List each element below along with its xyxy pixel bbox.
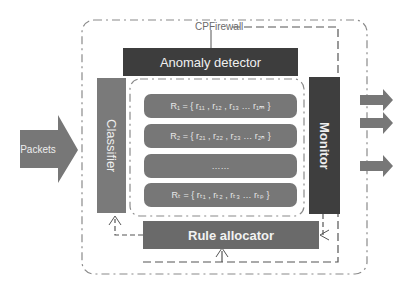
monitor-block: Monitor: [309, 77, 340, 214]
rule-set-label: Rₜ = { rₜ₁ , rₜ₂ , rₜ₃ … rₜₚ }: [172, 190, 270, 200]
classifier-label: Classifier: [104, 119, 119, 172]
rule-set-label: R₂ = { r₂₁ , r₂₂ , r₂₃ … r₂ₙ }: [170, 131, 270, 141]
anomaly-detector-block: Anomaly detector: [123, 48, 298, 76]
packets-arrow-label: Packets: [14, 144, 62, 155]
rule-set-box: R₂ = { r₂₁ , r₂₂ , r₂₃ … r₂ₙ }: [144, 124, 297, 148]
rule-allocator-label: Rule allocator: [188, 228, 274, 243]
anomaly-detector-label: Anomaly detector: [160, 55, 261, 70]
monitor-label: Monitor: [317, 122, 332, 170]
rule-set-label: ……: [212, 161, 230, 171]
rule-set-box: ……: [144, 154, 297, 178]
diagram-title: CPFirewall: [195, 21, 243, 32]
rule-allocator-block: Rule allocator: [143, 221, 319, 249]
classifier-block: Classifier: [97, 78, 126, 213]
rule-set-box: Rₜ = { rₜ₁ , rₜ₂ , rₜ₃ … rₜₚ }: [144, 183, 297, 207]
rule-set-box: R₁ = { r₁₁ , r₁₂ , r₁₃ … r₁ₘ }: [144, 94, 297, 118]
rule-set-label: R₁ = { r₁₁ , r₁₂ , r₁₃ … r₁ₘ }: [170, 101, 270, 111]
